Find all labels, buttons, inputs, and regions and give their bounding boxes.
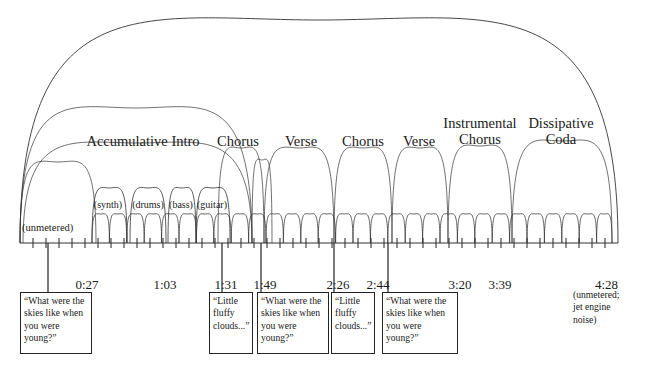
lyric-cue-box-5: “What were the skies like when you were … — [382, 292, 458, 354]
arc-phrase-18 — [405, 214, 422, 243]
section-label-accumulative-intro: Accumulative Intro — [86, 134, 199, 149]
arc-phrase-5 — [179, 214, 196, 243]
instrument-label-drums: (drums) — [132, 200, 164, 211]
instrument-label-synth: (synth) — [94, 200, 122, 211]
arc-diagram-figure: Accumulative Intro Chorus Verse Chorus V… — [0, 0, 651, 370]
arc-section-chorus-1 — [218, 147, 264, 243]
arc-phrase-27 — [562, 214, 579, 243]
time-label-0339: 3:39 — [488, 278, 511, 292]
arc-phrase-2 — [127, 214, 144, 243]
arc-phrase-13 — [318, 214, 335, 243]
arc-phrase-19 — [423, 214, 440, 243]
arc-phrase-14 — [336, 214, 353, 243]
arc-sub-guitar — [196, 187, 230, 243]
lyric-cue-box-2: “Little fluffy clouds...” — [209, 292, 253, 354]
section-label-instrumental-chorus: Instrumental Chorus — [443, 116, 516, 147]
section-label-verse-2: Verse — [403, 134, 435, 149]
time-label-0103: 1:03 — [153, 278, 176, 292]
arc-phrase-3 — [144, 214, 161, 243]
time-label-0131: 1:31 — [214, 278, 237, 292]
lyric-cue-box-4: “Little fluffy clouds...” — [331, 292, 375, 354]
arc-phrase-6 — [196, 214, 213, 243]
section-label-unmetered: (unmetered) — [22, 222, 73, 233]
arc-section-bridge — [252, 159, 272, 243]
arc-section-verse-1 — [264, 147, 334, 243]
instrument-label-guitar: (guitar) — [197, 200, 227, 211]
section-label-chorus-1: Chorus — [217, 134, 259, 149]
time-label-0226: 2:26 — [326, 278, 349, 292]
arc-phrase-0 — [92, 214, 109, 243]
section-label-chorus-2: Chorus — [342, 134, 384, 149]
arc-phrase-25 — [527, 214, 544, 243]
instrument-label-bass: (bass) — [169, 200, 193, 211]
arc-phrase-8 — [231, 214, 248, 243]
tail-note: (unmetered; jet engine noise) — [573, 289, 619, 326]
arc-phrase-28 — [579, 214, 596, 243]
arc-phrase-12 — [301, 214, 318, 243]
arc-phrase-22 — [475, 214, 492, 243]
arc-phrase-15 — [353, 214, 370, 243]
arc-phrase-29 — [597, 214, 612, 243]
time-label-0244: 2:44 — [366, 278, 389, 292]
time-label-0027: 0:27 — [75, 278, 98, 292]
arc-phrase-7 — [214, 214, 231, 243]
arc-section-chorus-2 — [334, 147, 392, 243]
lyric-cue-box-1: “What were the skies like when you were … — [20, 292, 92, 354]
arc-phrase-16 — [370, 214, 387, 243]
arc-phrase-11 — [283, 214, 300, 243]
section-label-verse-1: Verse — [285, 134, 317, 149]
section-label-dissipative-coda: Dissipative Coda — [528, 116, 593, 147]
time-label-0320: 3:20 — [448, 278, 471, 292]
arc-phrase-21 — [457, 214, 474, 243]
lyric-cue-box-3: “What were the skies like when you were … — [257, 292, 329, 354]
arc-sub-drums — [130, 187, 166, 243]
time-label-0149: 1:49 — [253, 278, 276, 292]
arc-phrase-10 — [266, 214, 283, 243]
